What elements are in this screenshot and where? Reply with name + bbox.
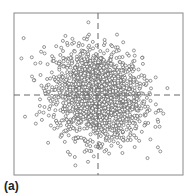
panel-label: (a) — [4, 179, 19, 193]
scatter-plot — [0, 0, 191, 196]
data-points — [20, 21, 169, 167]
